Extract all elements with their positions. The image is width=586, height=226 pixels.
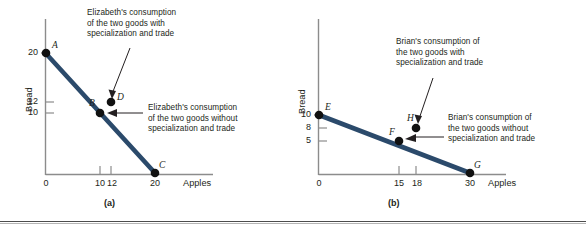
panel-a-point-a: [42, 49, 51, 58]
panel-b-xtick-label-30: 30: [459, 178, 481, 188]
panel-a-ytick-label-20: 20: [16, 47, 38, 57]
panel-a-arrow-to-d: [112, 48, 130, 94]
production-possibilities-figure: Bread 20 12 10 0 10 12 20 Apples A B C D…: [0, 0, 586, 226]
panel-a-point-label-d: D: [117, 92, 124, 102]
panel-b-point-label-g: G: [474, 160, 481, 170]
panel-a-x-axis-title: Apples: [183, 178, 211, 188]
panel-a-point-c: [151, 169, 160, 178]
panel-b-annotation-with-line-3: specialization and trade: [396, 58, 483, 69]
panel-a-ytick-label-12: 12: [16, 96, 38, 106]
panel-a-point-b: [96, 109, 105, 118]
panel-b-ytick-label-8: 8: [289, 122, 311, 132]
panel-b-arrow-to-h: [419, 78, 433, 119]
panel-b-arrowhead-f: [405, 134, 416, 142]
panel-b-arrowhead-h: [415, 115, 423, 125]
panel-b-point-e: [315, 111, 324, 120]
panel-a-ytick-label-10: 10: [16, 107, 38, 117]
panel-a-annotation-without-line-1: Elizabeth's consumption: [148, 103, 238, 114]
panel-b-caption: (b): [388, 198, 400, 208]
panel-b-x-axis-title: Apples: [488, 178, 516, 188]
panel-a-point-label-b: B: [89, 98, 95, 108]
panel-a-annotation-without-line-2: of the two goods without: [148, 114, 238, 125]
panel-a-annotation-with-line-1: Elizabeth's consumption: [87, 8, 176, 19]
panel-b-point-g: [466, 169, 475, 178]
panel-b-point-label-e: E: [325, 102, 331, 112]
chart-panel-b: Bread 10 8 5 0 15 18 30 Apples E F G H B…: [281, 0, 574, 226]
panel-a-point-label-c: C: [159, 160, 165, 170]
panel-a-annotation-with-line-3: specialization and trade: [87, 29, 176, 40]
panel-a-point-label-a: A: [52, 40, 58, 50]
panel-a-xtick-label-0: 0: [35, 178, 57, 188]
panel-a-arrowhead-b: [107, 109, 117, 117]
bottom-divider-rule-light: [0, 223, 586, 224]
panel-b-point-f: [395, 137, 404, 146]
panel-a-annotation-with-line-2: of the two goods with: [87, 19, 176, 30]
panel-a-point-d: [107, 98, 116, 107]
panel-a-annotation-without-line-3: specialization and trade: [148, 124, 238, 135]
bottom-divider-rule: [0, 221, 586, 222]
panel-b-annotation-without-line-3: specialization and trade: [448, 134, 535, 145]
panel-b-annotation-with-line-2: the two goods with: [396, 48, 483, 59]
panel-b-annotation-without-line-1: Brian's consumption of: [448, 113, 535, 124]
panel-b-point-label-f: F: [389, 127, 395, 137]
panel-b-point-label-h: H: [407, 113, 414, 123]
panel-a-arrowhead-d: [109, 90, 117, 100]
panel-a-annotation-with: Elizabeth's consumption of the two goods…: [87, 8, 176, 40]
panel-b-annotation-without-line-2: the two goods without: [448, 124, 535, 135]
panel-b-plot: [281, 0, 586, 226]
panel-b-ytick-label-5: 5: [289, 135, 311, 145]
panel-b-annotation-with-line-1: Brian's consumption of: [396, 37, 483, 48]
panel-b-annotation-with: Brian's consumption of the two goods wit…: [396, 37, 483, 69]
panel-b-annotation-without: Brian's consumption of the two goods wit…: [448, 113, 535, 145]
panel-b-point-h: [412, 124, 421, 133]
panel-a-xtick-label-20: 20: [144, 178, 166, 188]
panel-b-ytick-label-10: 10: [289, 109, 311, 119]
panel-a-xtick-label-12: 12: [101, 178, 123, 188]
chart-panel-a: Bread 20 12 10 0 10 12 20 Apples A B C D…: [0, 0, 293, 226]
panel-b-xtick-label-18: 18: [406, 178, 428, 188]
panel-a-caption: (a): [104, 198, 115, 208]
panel-a-annotation-without: Elizabeth's consumption of the two goods…: [148, 103, 238, 135]
panel-b-xtick-label-0: 0: [308, 178, 330, 188]
